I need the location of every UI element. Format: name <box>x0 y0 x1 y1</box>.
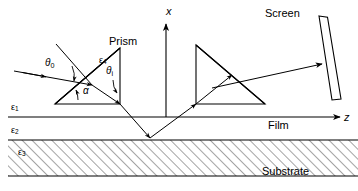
prism-label: Prism <box>109 36 137 47</box>
screen-panel <box>319 16 341 100</box>
incident-ray-arrowhead-2 <box>22 72 46 76</box>
epsilon-3-label: ε3 <box>18 148 26 158</box>
diagram-canvas <box>0 0 358 191</box>
film-label: Film <box>268 120 289 131</box>
substrate-label: Substrate <box>262 166 309 177</box>
theta0-arc <box>72 66 74 81</box>
x-axis-label: x <box>166 6 172 17</box>
epsilon-2-label: ε2 <box>11 126 19 136</box>
beam-into-film <box>120 104 150 138</box>
beam-up-through-right-prism <box>196 75 232 104</box>
beam-bounce-up <box>150 104 196 138</box>
optics-diagram-figure: Prism Screen Film Substrate x z θ0 θi α … <box>0 0 358 191</box>
alpha-arc <box>76 90 78 100</box>
theta0-label: θ0 <box>45 58 54 69</box>
incident-beam <box>14 71 92 85</box>
refracted-ray-in-prism <box>92 85 120 104</box>
alpha-label: α <box>83 86 89 96</box>
right-prism-internal-beam <box>196 75 232 104</box>
epsilon-1-label: ε1 <box>11 103 19 113</box>
screen-label: Screen <box>265 8 300 19</box>
thetai-label: θi <box>106 66 113 77</box>
output-beam-to-screen <box>212 64 322 88</box>
film-coupled-beam-left <box>120 104 196 138</box>
thetai-arc <box>113 80 117 93</box>
epsilon-4-label: ε4 <box>99 56 107 66</box>
z-axis-label: z <box>344 112 350 123</box>
